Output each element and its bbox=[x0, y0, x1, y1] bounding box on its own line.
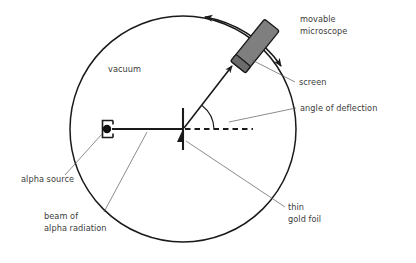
deflection-angle-arc bbox=[202, 106, 214, 130]
label-vacuum: vacuum bbox=[108, 64, 141, 74]
leader-thin-gold-foil bbox=[186, 141, 285, 207]
label-movable-microscope-line2: microscope bbox=[300, 26, 347, 36]
label-movable-microscope-line1: movable bbox=[300, 14, 336, 24]
label-beam-line1: beam of bbox=[44, 211, 79, 221]
alpha-source-pellet bbox=[103, 125, 111, 133]
label-angle-of-deflection: angle of deflection bbox=[300, 103, 377, 113]
leader-angle-of-deflection bbox=[229, 108, 296, 122]
deflected-ray-arrow bbox=[184, 66, 232, 128]
label-screen: screen bbox=[299, 77, 327, 87]
diagram-canvas: vacuum movable microscope screen angle o… bbox=[0, 0, 416, 263]
label-thin-gold-foil-line1: thin bbox=[288, 202, 304, 212]
alpha-source bbox=[103, 121, 114, 138]
leader-alpha-beam bbox=[104, 132, 147, 212]
leader-screen bbox=[252, 60, 295, 82]
label-thin-gold-foil-line2: gold foil bbox=[288, 214, 321, 224]
label-beam-line2: alpha radiation bbox=[44, 223, 107, 233]
label-alpha-source: alpha source bbox=[21, 174, 74, 184]
rutherford-scattering-diagram: vacuum movable microscope screen angle o… bbox=[0, 0, 416, 263]
gold-foil-base bbox=[177, 129, 183, 142]
movable-microscope[interactable] bbox=[231, 19, 280, 73]
